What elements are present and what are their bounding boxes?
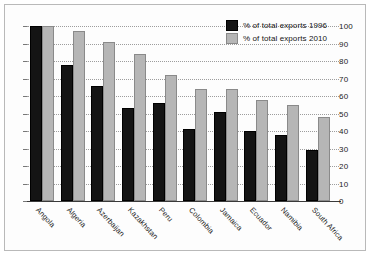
bar-group [58, 26, 89, 201]
bar-ecuador-1996 [244, 131, 256, 201]
legend-label-1996: % of total exports 1996 [243, 21, 327, 30]
bar-algeria-2010 [73, 31, 85, 201]
bar-namibia-1996 [275, 135, 287, 202]
y-axis-label-0: 0 [339, 197, 369, 206]
bar-angola-2010 [42, 26, 54, 201]
bar-ecuador-2010 [256, 100, 268, 202]
bar-jamaica-1996 [214, 112, 226, 201]
y-axis-label-30: 30 [339, 144, 369, 153]
x-axis-label-namibia: Namibia [279, 206, 305, 233]
gridline-0 [27, 201, 341, 202]
x-label-cell: Azerbaijan [88, 204, 119, 256]
y-axis-label-10: 10 [339, 179, 369, 188]
bar-group [88, 26, 119, 201]
x-label-cell: Colombia [180, 204, 211, 256]
bar-group [27, 26, 58, 201]
bar-group [241, 26, 272, 201]
bar-peru-1996 [153, 103, 165, 201]
y-axis-label-60: 60 [339, 92, 369, 101]
plot-area: 0102030405060708090100 [27, 26, 335, 201]
y-axis-label-40: 40 [339, 127, 369, 136]
legend-swatch-2010 [226, 33, 238, 44]
x-label-cell: Angola [27, 204, 58, 256]
bar-series-container [27, 26, 335, 201]
y-axis-label-90: 90 [339, 39, 369, 48]
x-axis-label-peru: Peru [157, 206, 175, 224]
x-label-cell: Ecuador [241, 204, 272, 256]
x-label-cell: Namibia [272, 204, 303, 256]
y-axis-label-20: 20 [339, 162, 369, 171]
x-label-cell: South Africa [302, 204, 333, 256]
bar-colombia-1996 [183, 129, 195, 201]
bar-kazakhstan-2010 [134, 54, 146, 201]
bar-kazakhstan-1996 [122, 108, 134, 201]
x-label-cell: Kazakhstan [119, 204, 150, 256]
bar-namibia-2010 [287, 105, 299, 201]
bar-south-africa-2010 [318, 117, 330, 201]
bar-south-africa-1996 [306, 150, 318, 201]
bar-peru-2010 [165, 75, 177, 201]
x-label-cell: Peru [149, 204, 180, 256]
chart-legend: % of total exports 1996 % of total expor… [226, 19, 327, 45]
y-axis-label-80: 80 [339, 57, 369, 66]
bar-group [119, 26, 150, 201]
x-label-cell: Jamaica [211, 204, 242, 256]
bar-group [211, 26, 242, 201]
bar-group [180, 26, 211, 201]
bar-colombia-2010 [195, 89, 207, 201]
x-axis-label-ecuador: Ecuador [249, 206, 275, 233]
x-axis-label-angola: Angola [34, 206, 57, 230]
chart-frame: 0102030405060708090100 AngolaAlgeriaAzer… [4, 4, 366, 251]
legend-item-1996: % of total exports 1996 [226, 19, 327, 32]
bar-jamaica-2010 [226, 89, 238, 201]
x-axis-labels: AngolaAlgeriaAzerbaijanKazakhstanPeruCol… [27, 204, 335, 256]
bar-group [272, 26, 303, 201]
bar-azerbaijan-1996 [91, 86, 103, 202]
x-label-cell: Algeria [58, 204, 89, 256]
legend-item-2010: % of total exports 2010 [226, 32, 327, 45]
legend-swatch-1996 [226, 20, 238, 31]
y-axis-label-70: 70 [339, 74, 369, 83]
legend-label-2010: % of total exports 2010 [243, 34, 327, 43]
bar-group [149, 26, 180, 201]
x-axis-label-jamaica: Jamaica [218, 206, 244, 233]
bar-azerbaijan-2010 [103, 42, 115, 201]
y-tick-0 [23, 201, 27, 202]
bar-algeria-1996 [61, 65, 73, 202]
x-axis-label-south-africa: South Africa [310, 206, 345, 243]
x-axis-label-algeria: Algeria [65, 206, 88, 230]
bar-group [302, 26, 333, 201]
bar-angola-1996 [30, 26, 42, 201]
y-axis-label-50: 50 [339, 109, 369, 118]
y-axis-label-100: 100 [339, 22, 369, 31]
